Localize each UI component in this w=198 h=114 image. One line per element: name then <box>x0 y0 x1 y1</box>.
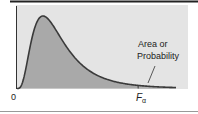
annotation-line1: Area or <box>138 39 168 49</box>
annotation-line2: Probability <box>137 51 180 61</box>
critical-value-label: Fα <box>136 92 146 104</box>
f-distribution-chart: Area or Probability 0 Fα <box>0 0 198 114</box>
critical-value-sub: α <box>142 97 146 104</box>
origin-tick-label: 0 <box>11 92 16 102</box>
